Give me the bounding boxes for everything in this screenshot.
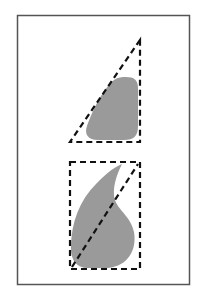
figure-canvas — [0, 0, 201, 303]
